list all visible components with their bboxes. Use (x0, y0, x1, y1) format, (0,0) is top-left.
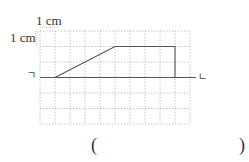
point-label-right: ㄴ (198, 72, 207, 82)
point-label-left: ㄱ (27, 71, 36, 81)
scale-indicator (36, 27, 55, 47)
answer-close-paren: ) (239, 136, 245, 154)
answer-open-paren: ( (91, 136, 97, 154)
scale-label-left: 1 cm (10, 31, 36, 44)
scale-label-top: 1 cm (36, 14, 62, 27)
